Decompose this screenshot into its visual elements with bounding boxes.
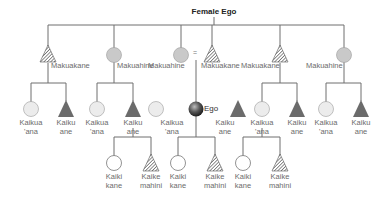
triangle-icon	[230, 100, 246, 117]
triangle-icon	[125, 100, 141, 117]
diagram-title: Female Ego	[192, 7, 237, 16]
parent-label: Makuahine	[148, 62, 185, 71]
triangle-icon	[289, 100, 305, 117]
sibling-label: Kaikua 'ana	[315, 119, 338, 136]
triangle-hatched-icon	[207, 154, 223, 171]
triangle-hatched-icon	[204, 45, 220, 62]
sibling-label: Kaiku ane	[288, 119, 307, 136]
triangle-icon	[58, 100, 74, 117]
child-label: Kaiki kane	[170, 173, 186, 190]
kinship-lines	[0, 0, 391, 199]
circle-icon	[319, 102, 334, 117]
sibling-label: Kaikua 'ana	[251, 119, 274, 136]
parent-label: Makuakane	[51, 62, 90, 71]
triangle-hatched-icon	[40, 45, 56, 62]
triangle-hatched-icon	[272, 45, 288, 62]
parent-label: Makuakane	[201, 62, 240, 71]
circle-icon	[149, 102, 164, 117]
child-label: Kaike mahini	[269, 173, 291, 190]
sibling-label: Kaikua 'ana	[20, 119, 43, 136]
sibling-label: Kaiku ane	[352, 119, 371, 136]
sibling-label: Kaikua 'ana	[86, 119, 109, 136]
child-label: Kaiki kane	[235, 173, 251, 190]
ego-label: Ego	[204, 105, 218, 114]
triangle-hatched-icon	[143, 154, 159, 171]
sibling-label: Kaikua 'ana	[161, 119, 184, 136]
circle-open-icon	[107, 156, 122, 171]
marriage-equals-sign: =	[193, 49, 197, 56]
ego-icon	[189, 102, 204, 117]
triangle-icon	[353, 100, 369, 117]
circle-open-icon	[171, 156, 186, 171]
child-label: Kaike mahini	[204, 173, 226, 190]
circle-icon	[24, 102, 39, 117]
child-label: Kaike mahini	[140, 173, 162, 190]
circle-icon	[90, 102, 105, 117]
parent-label: Makuakane	[241, 62, 280, 71]
circle-open-icon	[236, 156, 251, 171]
kinship-diagram: Female Ego = Makuakane Makuahine Makuahi…	[0, 0, 391, 199]
circle-icon	[255, 102, 270, 117]
sibling-label: Kaiku ane	[216, 119, 235, 136]
sibling-label: Kaiku ane	[124, 119, 143, 136]
child-label: Kaiki kane	[106, 173, 122, 190]
sibling-label: Kaiku ane	[57, 119, 76, 136]
parent-label: Makuahine	[306, 62, 343, 71]
triangle-hatched-icon	[272, 154, 288, 171]
